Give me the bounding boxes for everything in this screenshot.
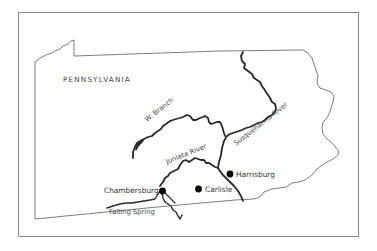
- city-label-chambersburg: Chambersburg: [104, 186, 159, 195]
- state-outline: [35, 40, 339, 219]
- state-label: PENNSYLVANIA: [63, 75, 131, 84]
- river-label-falling-spring: Falling Spring: [109, 208, 155, 216]
- pennsylvania-rivers-map: PENNSYLVANIA Harrisburg Carlisle Chamber…: [0, 0, 377, 251]
- city-dot-carlisle: [195, 186, 202, 193]
- city-label-carlisle: Carlisle: [205, 185, 233, 194]
- city-label-harrisburg: Harrisburg: [236, 170, 275, 179]
- river-label-juniata: Juniata River: [164, 142, 208, 166]
- river-label-susquehanna: Susquehanna River: [232, 101, 289, 148]
- river-label-w-branch: W. Branch: [143, 96, 175, 123]
- city-dot-harrisburg: [227, 171, 234, 178]
- city-dot-chambersburg: [159, 188, 166, 195]
- map-frame: [19, 13, 359, 237]
